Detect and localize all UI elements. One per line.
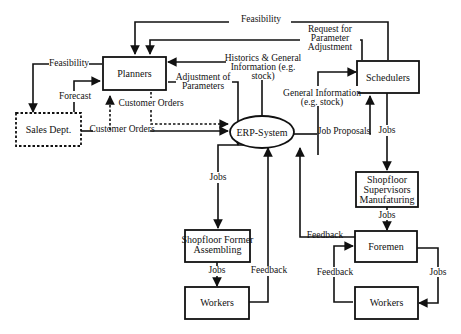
svg-text:Workers: Workers bbox=[200, 297, 234, 308]
label-forecast: Forecast bbox=[59, 91, 92, 101]
label-general-info-2: (e.g. stock) bbox=[301, 97, 343, 108]
svg-text:Assembling: Assembling bbox=[194, 244, 242, 255]
label-jobs-former: Jobs bbox=[209, 265, 226, 275]
label-request-3: Adjustment bbox=[308, 42, 353, 52]
label-feasibility-left: Feasibility bbox=[49, 58, 89, 68]
label-feasibility-top: Feasibility bbox=[241, 14, 281, 24]
node-erp-system[interactable]: ERP-System bbox=[230, 116, 294, 148]
node-schedulers[interactable]: Schedulers bbox=[357, 61, 419, 93]
label-feedback-loop: Feedback bbox=[317, 267, 354, 277]
svg-text:Foremen: Foremen bbox=[368, 241, 404, 252]
svg-text:Schedulers: Schedulers bbox=[366, 72, 410, 83]
label-historics-3: stock) bbox=[251, 71, 274, 82]
svg-text:Manufaturing: Manufaturing bbox=[360, 194, 415, 205]
svg-text:Planners: Planners bbox=[117, 68, 152, 79]
edge-general-info bbox=[318, 72, 356, 155]
label-adjustment-2: Parameters bbox=[182, 81, 225, 91]
node-planners[interactable]: Planners bbox=[103, 57, 166, 90]
node-sales-dept[interactable]: Sales Dept. bbox=[16, 113, 81, 146]
edge-feedback-workers bbox=[249, 148, 268, 302]
node-workers-left[interactable]: Workers bbox=[185, 287, 249, 319]
label-customer-orders-2: Customer Orders bbox=[89, 124, 154, 134]
label-jobs-supervisors: Jobs bbox=[379, 210, 396, 220]
svg-text:ERP-System: ERP-System bbox=[236, 127, 287, 138]
node-shopfloor-former[interactable]: Shopfloor Former Assembling bbox=[182, 230, 255, 262]
label-feedback-workers: Feedback bbox=[251, 265, 288, 275]
erp-flow-diagram: Planners Sales Dept. ERP-System Schedule… bbox=[0, 0, 461, 334]
label-jobs-loop: Jobs bbox=[430, 267, 447, 277]
node-shopfloor-supervisors[interactable]: Shopfloor Supervisors Manufaturing bbox=[356, 172, 418, 207]
svg-text:Workers: Workers bbox=[370, 297, 404, 308]
label-job-proposals: Job Proposals bbox=[318, 126, 371, 136]
label-feedback-foremen: Feedback bbox=[307, 230, 344, 240]
edge-feedback-foremen bbox=[300, 148, 355, 237]
node-foremen[interactable]: Foremen bbox=[355, 231, 417, 262]
edge-jobs-erp bbox=[218, 145, 258, 228]
edge-feasibility-left bbox=[33, 64, 102, 112]
label-jobs-erp: Jobs bbox=[210, 172, 227, 182]
label-customer-orders-1: Customer Orders bbox=[118, 98, 183, 108]
svg-text:Sales Dept.: Sales Dept. bbox=[26, 124, 72, 135]
label-jobs-schedulers: Jobs bbox=[379, 125, 396, 135]
node-workers-right[interactable]: Workers bbox=[355, 287, 418, 319]
